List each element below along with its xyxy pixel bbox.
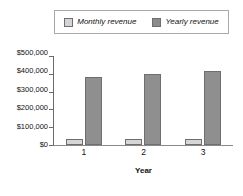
- bar-monthly-2[interactable]: [125, 139, 142, 145]
- y-axis-labels: $500,000 $400,000 $300,000 $200,000 $100…: [0, 53, 48, 145]
- bar-chart: Monthly revenue Yearly revenue $500,000 …: [0, 0, 243, 196]
- bar-monthly-3[interactable]: [185, 139, 202, 145]
- chart-legend: Monthly revenue Yearly revenue: [54, 10, 229, 34]
- plot-area: $500,000 $400,000 $300,000 $200,000 $100…: [0, 44, 243, 196]
- x-axis-title: Year: [54, 166, 233, 175]
- y-tick-label-300000: $300,000: [17, 86, 48, 94]
- y-tick-label-400000: $400,000: [17, 68, 48, 76]
- y-tick-label-100000: $100,000: [17, 123, 48, 131]
- bar-group-1: [54, 56, 114, 145]
- y-axis-tick-0: [49, 145, 54, 146]
- bar-group-2: [114, 56, 174, 145]
- bars-container: [54, 56, 233, 145]
- bar-yearly-2[interactable]: [144, 74, 161, 145]
- bar-yearly-1[interactable]: [85, 77, 102, 145]
- legend-label-yearly: Yearly revenue: [165, 18, 218, 26]
- legend-swatch-yearly-icon: [152, 18, 161, 27]
- legend-swatch-monthly-icon: [64, 18, 73, 27]
- x-tick-label-1: 1: [81, 148, 86, 157]
- y-tick-label-500000: $500,000: [17, 49, 48, 57]
- y-tick-label-200000: $200,000: [17, 104, 48, 112]
- bar-monthly-1[interactable]: [66, 139, 83, 145]
- legend-label-monthly: Monthly revenue: [77, 18, 136, 26]
- x-axis-line: [53, 145, 233, 146]
- x-tick-label-2: 2: [141, 148, 146, 157]
- x-tick-label-3: 3: [201, 148, 206, 157]
- bar-yearly-3[interactable]: [204, 71, 221, 145]
- y-tick-label-0: $0: [40, 141, 48, 149]
- legend-item-monthly-revenue[interactable]: Monthly revenue: [64, 18, 136, 27]
- legend-item-yearly-revenue[interactable]: Yearly revenue: [152, 18, 218, 27]
- x-axis-labels: 1 2 3: [54, 148, 233, 162]
- bar-group-3: [173, 56, 233, 145]
